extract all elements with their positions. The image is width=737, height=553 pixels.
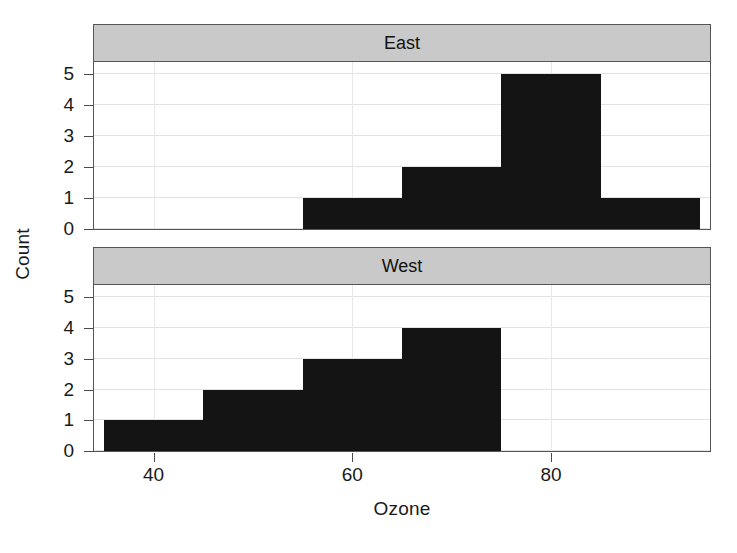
y-axis-tick: [84, 390, 93, 391]
y-axis-tick-label: 5: [48, 63, 74, 85]
y-axis-tick: [84, 105, 93, 106]
histogram-bar: [601, 198, 700, 229]
y-axis-tick: [84, 451, 93, 452]
y-axis-tick-label: 3: [48, 125, 74, 147]
histogram-bar: [303, 359, 402, 451]
x-axis-title: Ozone: [93, 498, 711, 520]
y-axis-tick: [84, 359, 93, 360]
y-axis-tick-label: 0: [48, 218, 74, 240]
y-axis-tick-label: 2: [48, 379, 74, 401]
gridline-horizontal: [94, 104, 710, 105]
x-axis-tick: [154, 453, 155, 462]
y-axis-tick-label: 0: [48, 440, 74, 462]
x-axis-tick-label: 60: [322, 464, 382, 486]
trellis-histogram-figure: Count East West 012345 012345 406080 Ozo…: [0, 0, 737, 553]
y-axis-tick-label: 1: [48, 409, 74, 431]
y-axis-tick-label: 4: [48, 94, 74, 116]
strip-header-west: West: [94, 248, 710, 285]
y-axis-tick-label: 3: [48, 348, 74, 370]
gridline-horizontal: [94, 135, 710, 136]
x-axis-tick-label: 40: [124, 464, 184, 486]
gridline-horizontal: [94, 73, 710, 74]
y-axis-title: Count: [12, 194, 34, 314]
x-axis-tick-label: 80: [521, 464, 581, 486]
y-axis-tick: [84, 297, 93, 298]
strip-header-east: East: [94, 25, 710, 62]
strip-label-west: West: [94, 256, 710, 277]
y-axis-tick: [84, 328, 93, 329]
panel-east: East: [93, 24, 711, 230]
panel-west: West: [93, 247, 711, 452]
y-axis-tick: [84, 74, 93, 75]
y-axis-tick: [84, 167, 93, 168]
gridline-vertical: [551, 285, 552, 451]
histogram-bar: [402, 167, 501, 229]
plot-area-east: [94, 62, 710, 229]
y-axis-tick-label: 5: [48, 286, 74, 308]
histogram-bar: [501, 74, 600, 229]
y-axis-tick: [84, 198, 93, 199]
y-axis-tick-label: 2: [48, 156, 74, 178]
plot-area-west: [94, 285, 710, 451]
histogram-bar: [104, 420, 203, 451]
y-axis-tick-label: 4: [48, 317, 74, 339]
gridline-vertical: [154, 62, 155, 229]
gridline-horizontal: [94, 296, 710, 297]
histogram-bar: [402, 328, 501, 451]
histogram-bar: [203, 390, 302, 451]
y-axis-tick: [84, 229, 93, 230]
x-axis-tick: [352, 453, 353, 462]
x-axis-tick: [551, 453, 552, 462]
y-axis-tick: [84, 420, 93, 421]
strip-label-east: East: [94, 33, 710, 54]
y-axis-tick: [84, 136, 93, 137]
histogram-bar: [303, 198, 402, 229]
y-axis-tick-label: 1: [48, 187, 74, 209]
